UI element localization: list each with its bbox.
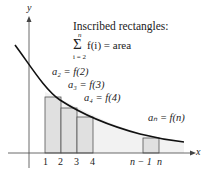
tick-n-minus-1: n − 1 (130, 157, 152, 167)
tick-1: 1 (43, 157, 48, 167)
annotation-a3: a₃ = f(3) (68, 80, 104, 91)
tick-4: 4 (90, 157, 95, 167)
rectangle-2 (61, 108, 77, 153)
annotation-a4: a₄ = f(4) (84, 93, 120, 104)
diagram-title: Inscribed rectangles: (73, 21, 168, 33)
tick-n: n (157, 157, 162, 167)
tick-2: 2 (58, 157, 63, 167)
x-axis-label: x (196, 147, 200, 157)
y-axis-arrow-icon (27, 16, 32, 22)
sum-sigma: Σ (73, 37, 82, 52)
sum-lower: i = 2 (73, 54, 86, 61)
rectangle-n (143, 138, 159, 153)
annotation-a2: a₂ = f(2) (52, 67, 88, 78)
tick-3: 3 (74, 157, 79, 167)
rectangle-1 (45, 97, 61, 153)
rectangle-3 (77, 117, 93, 153)
annotation-an: aₙ = f(n) (148, 113, 185, 124)
sum-expression: f(i) = area (87, 40, 131, 51)
y-axis-label: y (27, 3, 31, 13)
